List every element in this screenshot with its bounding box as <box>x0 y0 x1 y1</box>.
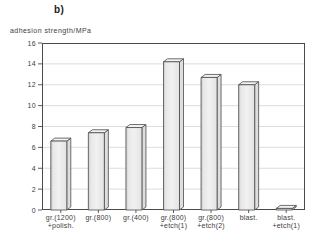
bar-front-face <box>164 62 180 210</box>
bar-7 <box>276 205 296 210</box>
bar-3 <box>126 125 146 210</box>
bar-6 <box>239 82 259 210</box>
y-tick-label-6: 6 <box>0 143 36 152</box>
x-tick-label-line: +etch(2) <box>189 222 233 230</box>
bar-top-face <box>88 130 108 133</box>
panel-label: b) <box>54 4 64 15</box>
bar-side-face <box>217 74 221 210</box>
y-tick-label-8: 8 <box>0 122 36 131</box>
x-tick-label-line: blast. <box>264 214 308 222</box>
bar-4 <box>164 59 184 210</box>
y-tick-label-14: 14 <box>0 59 36 68</box>
bar-side-face <box>255 82 259 210</box>
x-tick-label-7: blast.+etch(1) <box>264 214 308 230</box>
bar-front-face <box>239 85 255 210</box>
bar-top-face <box>276 205 296 208</box>
bar-chart-canvas <box>42 43 305 210</box>
bar-top-face <box>51 138 71 141</box>
plot-area <box>42 43 305 210</box>
bar-side-face <box>104 130 108 210</box>
y-tick-label-12: 12 <box>0 80 36 89</box>
bar-5 <box>201 74 221 210</box>
bar-side-face <box>142 125 146 210</box>
x-tick-label-line: +polish. <box>39 222 83 230</box>
y-tick-label-4: 4 <box>0 164 36 173</box>
y-tick-label-2: 2 <box>0 185 36 194</box>
figure-panel: b) adhesion strength/MPa 0246810121416 g… <box>0 0 323 250</box>
y-axis-title: adhesion strength/MPa <box>10 27 91 34</box>
bar-top-face <box>239 82 259 85</box>
bar-2 <box>88 130 108 210</box>
bar-1 <box>51 138 71 210</box>
y-tick-label-0: 0 <box>0 206 36 215</box>
x-tick-label-line: +etch(1) <box>264 222 308 230</box>
y-tick-label-16: 16 <box>0 39 36 48</box>
bar-front-face <box>201 77 217 210</box>
bar-top-face <box>201 74 221 77</box>
bar-top-face <box>126 125 146 128</box>
bar-front-face <box>126 128 142 210</box>
bar-side-face <box>67 138 71 210</box>
y-tick-label-10: 10 <box>0 101 36 110</box>
bar-top-face <box>164 59 184 62</box>
bar-front-face <box>88 133 104 210</box>
bar-front-face <box>51 141 67 210</box>
bar-side-face <box>180 59 184 210</box>
bar-front-face <box>276 208 292 210</box>
